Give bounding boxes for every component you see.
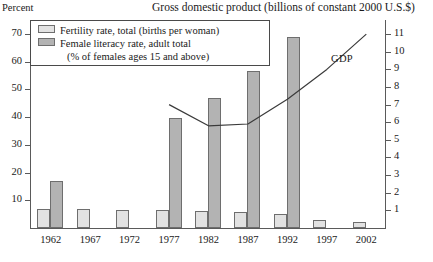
right-tick-mark (386, 122, 391, 123)
x-axis-label: 1987 (228, 234, 268, 245)
chart-root: Percent Gross domestic product (billions… (0, 0, 433, 262)
right-tick-label: 10 (394, 45, 405, 56)
right-tick-label: 4 (394, 150, 399, 161)
right-tick-mark (386, 210, 391, 211)
legend-label-literacy-line2: (% of females ages 15 and above) (67, 51, 209, 62)
right-tick-label: 11 (394, 27, 404, 38)
legend-swatch-literacy (38, 38, 55, 46)
right-tick-mark (386, 87, 391, 88)
legend-label-literacy: Female literacy rate, adult total (60, 38, 191, 49)
left-tick-label: 10 (0, 193, 22, 204)
legend-label-fertility: Fertility rate, total (births per woman) (60, 25, 219, 36)
right-tick-label: 1 (394, 203, 399, 214)
legend-item-fertility: Fertility rate, total (births per woman) (38, 25, 219, 36)
left-tick-label: 30 (0, 138, 22, 149)
left-tick-label: 40 (0, 110, 22, 121)
right-tick-mark (386, 157, 391, 158)
left-axis-title: Percent (2, 2, 34, 13)
legend-swatch-fertility (38, 25, 55, 33)
right-tick-label: 9 (394, 62, 399, 73)
chart-legend: Fertility rate, total (births per woman)… (30, 20, 270, 66)
x-axis-label: 1997 (307, 234, 347, 245)
legend-item-literacy: Female literacy rate, adult total (38, 38, 191, 49)
right-tick-mark (386, 34, 391, 35)
right-tick-label: 7 (394, 98, 399, 109)
right-tick-mark (386, 69, 391, 70)
chart-title: Gross domestic product (billions of cons… (152, 1, 415, 13)
right-tick-mark (386, 175, 391, 176)
x-axis-label: 1972 (110, 234, 150, 245)
left-tick-label: 70 (0, 27, 22, 38)
left-tick-label: 20 (0, 166, 22, 177)
left-tick-label: 60 (0, 55, 22, 66)
right-tick-label: 2 (394, 186, 399, 197)
x-axis-label: 1977 (149, 234, 189, 245)
right-tick-mark (386, 193, 391, 194)
right-tick-label: 5 (394, 133, 399, 144)
x-axis-label: 1982 (189, 234, 229, 245)
right-tick-mark (386, 140, 391, 141)
right-tick-label: 3 (394, 168, 399, 179)
x-axis-label: 2002 (346, 234, 386, 245)
right-tick-mark (386, 52, 391, 53)
right-tick-label: 8 (394, 80, 399, 91)
gdp-series-label: GDP (331, 53, 353, 64)
left-tick-label: 50 (0, 82, 22, 93)
x-axis-label: 1992 (267, 234, 307, 245)
right-tick-mark (386, 105, 391, 106)
x-axis-label: 1967 (70, 234, 110, 245)
right-tick-label: 6 (394, 115, 399, 126)
x-axis-label: 1962 (31, 234, 71, 245)
